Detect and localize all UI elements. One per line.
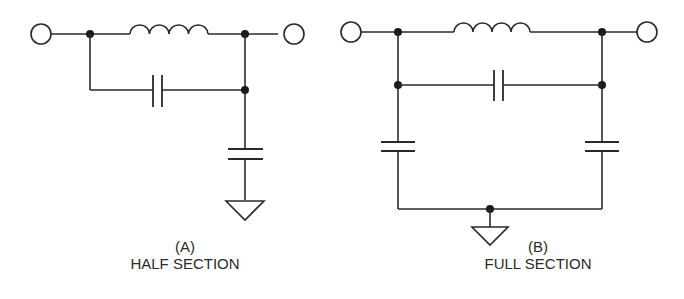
input-terminal-a [31, 24, 51, 44]
caption-a-title: HALF SECTION [100, 255, 270, 272]
inductor-a [130, 25, 208, 34]
ground-icon-a [226, 201, 264, 220]
output-terminal-b [637, 22, 657, 42]
output-terminal-a [284, 24, 304, 44]
input-terminal-b [341, 22, 361, 42]
junction-dot [241, 86, 249, 94]
caption-b-letter: (B) [453, 238, 623, 255]
caption-b: (B) FULL SECTION [453, 238, 623, 272]
caption-a-letter: (A) [100, 238, 270, 255]
caption-a: (A) HALF SECTION [100, 238, 270, 272]
caption-b-title: FULL SECTION [453, 255, 623, 272]
half-section-circuit [31, 24, 304, 220]
inductor-b [454, 23, 530, 32]
full-section-circuit [341, 22, 657, 245]
